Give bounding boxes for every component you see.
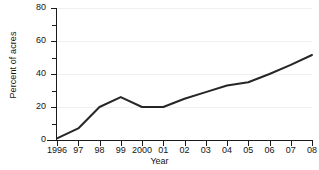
y-tick-label-80: 80 <box>12 2 46 12</box>
plot-area <box>57 8 312 140</box>
y-tick-40 <box>51 74 56 75</box>
y-tick-minor-30 <box>52 91 56 92</box>
y-tick-minor-70 <box>52 25 56 26</box>
y-tick-60 <box>51 41 56 42</box>
x-axis-line <box>47 140 313 141</box>
x-tick-label-08: 08 <box>297 145 319 155</box>
y-tick-20 <box>51 107 56 108</box>
y-tick-80 <box>51 8 56 9</box>
line-chart: Percent of acres 020406080 1996979899200… <box>0 0 319 170</box>
y-tick-label-0: 0 <box>12 134 46 144</box>
series-polyline <box>57 55 312 138</box>
x-axis-title: Year <box>0 156 319 166</box>
y-tick-0 <box>51 140 56 141</box>
series-line-percent-of-acres <box>57 8 312 140</box>
y-tick-minor-10 <box>52 124 56 125</box>
y-tick-label-40: 40 <box>12 68 46 78</box>
y-tick-label-20: 20 <box>12 101 46 111</box>
y-tick-minor-50 <box>52 58 56 59</box>
y-tick-label-60: 60 <box>12 35 46 45</box>
